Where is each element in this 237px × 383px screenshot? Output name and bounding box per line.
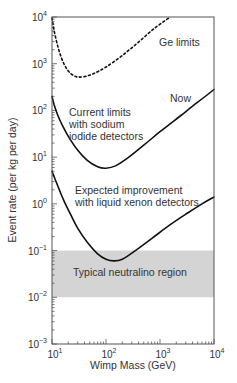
y-tick-label: 100	[32, 197, 47, 210]
x-axis-label: Wimp Mass (GeV)	[90, 359, 176, 371]
ge-limits-label: Ge limits	[159, 36, 200, 48]
y-tick-label: 10−3	[28, 337, 47, 350]
y-tick-label: 104	[32, 10, 47, 23]
nai-label-line3: iodide detectors	[69, 130, 143, 142]
y-tick-label: 103	[32, 57, 47, 70]
x-tick-label: 101	[47, 347, 62, 360]
x-axis-ticks: 101102103104	[47, 339, 224, 360]
neutralino-region-label: Typical neutralino region	[73, 266, 187, 278]
xenon-label-line2: with liquid xenon detectors	[74, 196, 199, 208]
x-tick-label: 104	[209, 347, 224, 360]
xenon-label-line1: Expected improvement	[75, 184, 182, 196]
wimp-event-rate-chart: 10410310210110010−110−210−3 101102103104…	[0, 0, 237, 383]
y-axis-ticks: 10410310210110010−110−210−3	[28, 10, 57, 350]
nai-label-line2: with sodium	[68, 118, 125, 130]
nai-label-line1: Current limits	[69, 106, 131, 118]
now-label: Now	[170, 92, 191, 104]
y-tick-label: 10−1	[28, 244, 47, 257]
y-tick-label: 10−2	[28, 290, 47, 303]
y-tick-label: 102	[32, 103, 47, 116]
y-tick-label: 101	[32, 150, 47, 163]
ge-limits-curve	[52, 17, 170, 77]
y-axis-label: Event rate (per kg per day)	[6, 118, 18, 243]
